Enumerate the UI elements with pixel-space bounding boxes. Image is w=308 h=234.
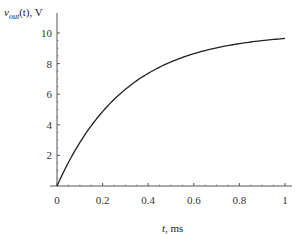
axes (50, 13, 292, 186)
y-axis-label: vout(t), V (4, 6, 43, 21)
x-tick-label: 1 (282, 194, 288, 206)
y-tick-label: 4 (47, 119, 53, 131)
x-tick-label: 0.8 (233, 194, 247, 206)
y-tick-label: 6 (47, 88, 53, 100)
data-line (57, 38, 285, 186)
y-tick-label: 8 (47, 58, 53, 70)
y-tick-label: 10 (41, 27, 53, 39)
chart: 246810 00.20.40.60.81 vout(t), V t, ms (0, 0, 308, 234)
y-tick-label: 2 (47, 149, 53, 161)
x-tick-label: 0.6 (187, 194, 201, 206)
x-tick-label: 0.2 (96, 194, 110, 206)
x-axis-label: t, ms (162, 222, 183, 234)
x-tick-label: 0 (54, 194, 60, 206)
x-tick-label: 0.4 (141, 194, 155, 206)
